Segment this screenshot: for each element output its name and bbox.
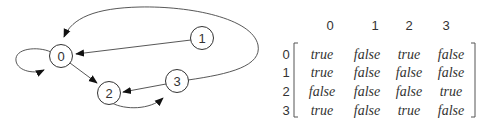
cell-3-0: true [311,103,334,118]
cell-2-2: false [396,84,422,99]
cell-1-1: false [354,65,380,80]
col-header-2: 2 [405,18,412,33]
node-0: 0 [50,45,73,68]
cell-2-3: true [440,84,463,99]
cell-0-3: false [438,47,464,62]
cell-0-2: true [398,47,421,62]
right-bracket [471,43,475,117]
col-header-3: 3 [442,18,449,33]
cell-0-0: true [311,47,334,62]
cell-1-3: false [438,65,464,80]
cell-1-2: false [396,65,422,80]
node-1: 1 [191,27,214,50]
row-header-2: 2 [282,84,289,99]
edge-0-0 [16,49,51,72]
adjacency-matrix: 0 1 2 3 0 1 2 3 true false true false tr… [282,18,475,118]
left-bracket [294,43,298,117]
cell-2-1: false [354,84,380,99]
cell-3-3: false [438,103,464,118]
cell-0-1: false [354,47,380,62]
node-2: 2 [98,82,121,105]
cell-3-1: false [354,103,380,118]
cell-3-2: true [398,103,421,118]
row-header-1: 1 [282,65,289,80]
svg-text:2: 2 [105,86,112,101]
cell-2-0: false [309,84,335,99]
cell-1-0: true [311,65,334,80]
svg-text:0: 0 [57,49,64,64]
graph-diagram: 0 1 2 3 0 1 2 3 0 1 2 3 true false true … [0,0,487,122]
edge-0-2 [70,63,97,83]
svg-text:3: 3 [173,74,180,89]
row-header-3: 3 [282,103,289,118]
edge-3-2 [123,84,166,92]
col-header-1: 1 [371,18,378,33]
col-header-0: 0 [326,18,333,33]
row-header-0: 0 [282,47,289,62]
edge-2-3 [112,98,163,108]
svg-text:1: 1 [198,31,205,46]
node-3: 3 [166,70,189,93]
edge-1-0 [76,40,191,54]
